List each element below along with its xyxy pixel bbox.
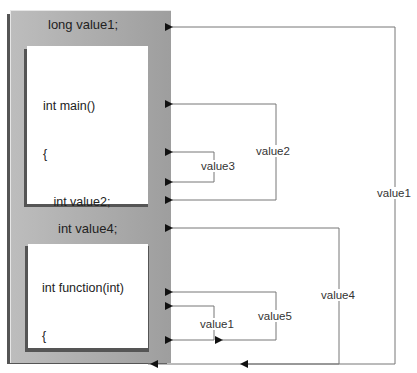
arrow-label-value1-outer: value1 bbox=[376, 187, 412, 199]
arrow-label-value2: value2 bbox=[255, 145, 291, 157]
arrow-label-value1-function: value1 bbox=[199, 318, 235, 330]
arrow-label-value4: value4 bbox=[320, 289, 356, 301]
arrow-label-value5: value5 bbox=[257, 310, 293, 322]
arrow-label-value3: value3 bbox=[200, 160, 236, 172]
